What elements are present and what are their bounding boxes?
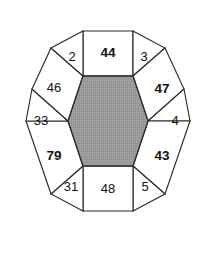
cell-label-right-lower: 43 <box>154 148 170 163</box>
inner-hexagon-region <box>68 76 148 166</box>
cell-label-top-right: 3 <box>140 49 147 64</box>
cell-label-top: 44 <box>100 45 116 60</box>
cell-label-right-upper: 47 <box>154 81 169 96</box>
cell-label-bottom-right: 5 <box>141 179 148 194</box>
puzzle-diagram: 44 3 47 4 43 5 48 31 79 33 46 2 <box>0 0 215 255</box>
cell-label-left-lower: 79 <box>46 148 61 163</box>
cell-label-bottom-left: 31 <box>64 179 78 194</box>
cell-label-top-left: 2 <box>68 49 75 64</box>
cell-label-left: 33 <box>34 113 48 128</box>
cell-label-right: 4 <box>171 113 178 128</box>
cell-label-bottom: 48 <box>101 181 115 196</box>
cell-label-left-upper: 46 <box>47 80 61 95</box>
puzzle-figure: 44 3 47 4 43 5 48 31 79 33 46 2 <box>0 0 215 255</box>
